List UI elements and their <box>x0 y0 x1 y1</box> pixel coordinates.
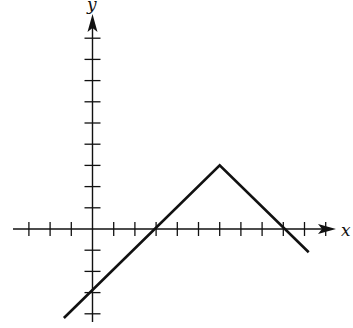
y-axis-label: y <box>86 0 97 14</box>
y-axis <box>88 14 98 322</box>
coordinate-graph: x y <box>0 0 353 328</box>
graph-line <box>64 165 309 318</box>
x-axis-label: x <box>341 220 351 240</box>
